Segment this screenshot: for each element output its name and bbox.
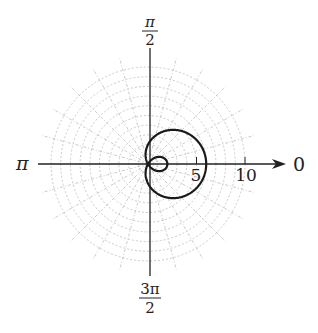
svg-text:π: π [144,13,156,31]
svg-text:3π: 3π [140,280,160,298]
polar-axes [38,48,286,276]
svg-text:2: 2 [145,31,155,49]
angle-label-pi: π [15,152,29,174]
angle-label-3pi-over-2: 3π 2 [139,280,161,317]
radial-tick-label-5: 5 [191,165,202,185]
radial-tick-label-10: 10 [235,165,257,185]
angle-label-pi-over-2: π 2 [142,13,158,49]
angle-label-0: 0 [293,153,305,175]
svg-text:2: 2 [145,299,155,317]
polar-plot: 0 π π 2 3π 2 5 10 [0,0,318,333]
